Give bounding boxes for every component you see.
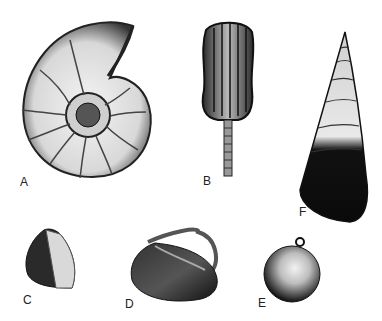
- shell-c-illustration: [26, 229, 75, 288]
- figure-label-c: C: [23, 294, 32, 306]
- bivalve-illustration: [131, 230, 217, 301]
- figure-label-f: F: [299, 206, 306, 218]
- crinoid-illustration: [203, 22, 254, 176]
- gastropod-illustration: [300, 32, 367, 222]
- round-shell-illustration: [264, 238, 320, 302]
- figure-label-e: E: [258, 297, 266, 309]
- fossil-plate: A B C D E F: [0, 0, 382, 321]
- fossil-illustration: [0, 0, 382, 321]
- figure-label-d: D: [125, 298, 134, 310]
- figure-label-a: A: [20, 176, 28, 188]
- figure-label-b: B: [203, 175, 211, 187]
- ammonite-illustration: [22, 22, 151, 178]
